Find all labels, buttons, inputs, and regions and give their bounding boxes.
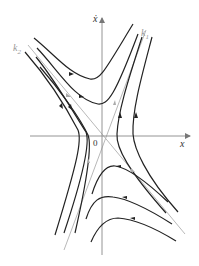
arrow-icon [118, 112, 122, 118]
trajectory-right-2 [133, 37, 178, 212]
trajectory-left-2 [36, 57, 87, 233]
origin-label: 0 [93, 139, 98, 148]
trajectory-right-1 [117, 37, 166, 213]
trajectory-upper-1 [34, 24, 133, 79]
k1-label: k1 [141, 28, 149, 41]
k2-label-sub: 2 [17, 48, 21, 56]
horizontal-axis-label: x [180, 139, 184, 149]
trajectory-lower-3 [91, 218, 176, 242]
flow-arrows [59, 72, 138, 220]
asymptote-k2 [28, 45, 185, 234]
phase-plane-svg [0, 0, 199, 266]
vertical-axis-label: ẋ [93, 14, 97, 24]
arrow-icon [59, 103, 63, 109]
phase-portrait: ẋ x 0 k1 k2 [0, 0, 199, 266]
trajectory-left-3 [40, 67, 89, 233]
k1-label-sub: 1 [145, 33, 149, 41]
trajectory-upper-2 [37, 34, 138, 104]
arrow-icon [69, 72, 74, 76]
k2-label: k2 [13, 43, 21, 56]
arrow-icon [113, 100, 116, 105]
